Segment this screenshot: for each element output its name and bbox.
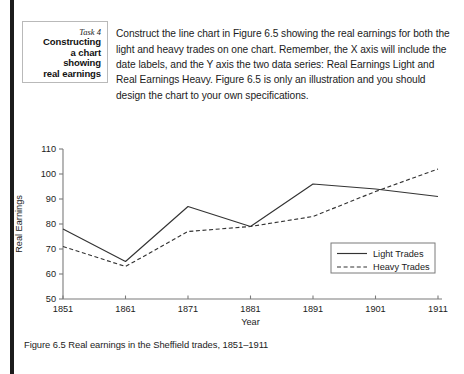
task-instructions-paragraph: Construct the line chart in Figure 6.5 s… [116,26,454,103]
y-axis-tick-label: 60 [46,269,56,279]
task-title-line-4: real earnings [27,69,101,80]
task-callout-box: Task 4 Constructing a chart showing real… [22,21,108,83]
x-axis-tick-label: 1891 [303,304,323,314]
y-axis-tick-label: 50 [46,294,56,304]
y-axis-title: Real Earnings [14,195,24,253]
x-axis-tick-label: 1871 [178,304,198,314]
legend-label-light-trades: Light Trades [373,249,424,259]
x-axis-tick-label: 1861 [115,304,135,314]
y-axis-tick-label: 70 [46,244,56,254]
legend-label-heavy-trades: Heavy Trades [373,262,430,272]
x-axis-tick-label: 1901 [365,304,385,314]
chart-canvas: 5060708090100110Real Earnings18511861187… [0,126,464,331]
figure-page: Task 4 Constructing a chart showing real… [0,0,464,374]
figure-caption: Figure 6.5 Real earnings in the Sheffiel… [24,339,268,350]
x-axis-tick-label: 1881 [240,304,260,314]
y-axis-tick-label: 110 [41,144,56,154]
x-axis-tick-label: 1851 [53,304,73,314]
task-title-line-1: Constructing [27,37,101,48]
x-axis-title: Year [241,317,260,327]
y-axis-tick-label: 80 [46,219,56,229]
y-axis-tick-label: 100 [41,169,56,179]
line-chart: 5060708090100110Real Earnings18511861187… [0,126,464,331]
y-axis-tick-label: 90 [46,194,56,204]
x-axis-tick-label: 1911 [428,304,448,314]
